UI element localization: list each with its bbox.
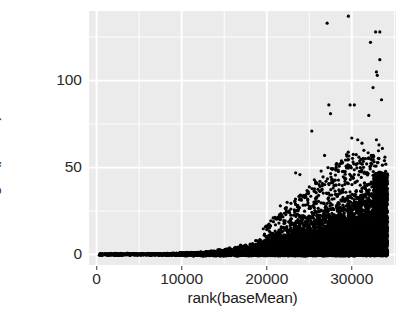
x-tick-label: 30000 xyxy=(330,270,373,288)
x-tick-mark xyxy=(181,266,183,270)
y-tick-label: 0 xyxy=(36,245,82,263)
x-tick-label: 0 xyxy=(92,270,101,288)
x-axis-title: rank(baseMean) xyxy=(89,289,396,307)
data-points-layer xyxy=(89,11,396,265)
x-tick-mark xyxy=(266,266,268,270)
y-axis-ticks: 050100 xyxy=(30,0,82,331)
plot-panel xyxy=(89,11,396,265)
x-tick-label: 20000 xyxy=(245,270,288,288)
y-axis-title-text: −log10(pvalue) xyxy=(0,115,2,215)
y-tick-label: 50 xyxy=(36,158,82,176)
y-tick-label: 100 xyxy=(36,71,82,89)
x-tick-mark xyxy=(351,266,353,270)
y-axis-title: −log10(pvalue) xyxy=(0,0,22,331)
x-tick-mark xyxy=(96,266,98,270)
x-tick-label: 10000 xyxy=(160,270,203,288)
scatter-plot-figure: −log10(pvalue) 050100 0100002000030000 r… xyxy=(0,0,410,331)
